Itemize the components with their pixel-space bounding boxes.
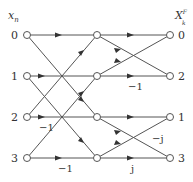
node: [94, 114, 101, 121]
butterfly-diagram: xn XF k 0 1 2 3 0 2 1 3: [0, 0, 193, 182]
input-label-0: 0: [11, 29, 18, 42]
output-label-0: 0: [178, 29, 185, 42]
node: [167, 155, 174, 162]
input-label-3: 3: [11, 152, 18, 165]
node: [167, 32, 174, 39]
input-label-1: 1: [11, 70, 18, 83]
output-label-2: 2: [178, 70, 185, 83]
stage2-weight-cross: −j: [152, 133, 163, 144]
stage2-weight-row3: j: [130, 163, 134, 174]
node: [24, 73, 31, 80]
middle-nodes: [94, 32, 101, 162]
output-header-sub: k: [182, 19, 186, 26]
stage1-edges: [27, 35, 97, 158]
stage1-weight-row2: −1: [39, 122, 54, 133]
output-label-3: 3: [178, 152, 185, 165]
node: [167, 114, 174, 121]
output-label-1: 1: [178, 111, 185, 124]
stage2-weight-row1: −1: [128, 81, 143, 92]
output-header: XF: [174, 8, 188, 22]
input-label-2: 2: [11, 111, 18, 124]
arrowheads: [38, 33, 134, 161]
node: [94, 32, 101, 39]
node: [94, 73, 101, 80]
node: [167, 73, 174, 80]
node: [24, 32, 31, 39]
node: [24, 155, 31, 162]
input-header: xn: [8, 9, 19, 24]
input-nodes: [24, 32, 31, 162]
node: [24, 114, 31, 121]
node: [94, 155, 101, 162]
output-nodes: [167, 32, 174, 162]
stage1-weight-row3: −1: [58, 163, 73, 174]
